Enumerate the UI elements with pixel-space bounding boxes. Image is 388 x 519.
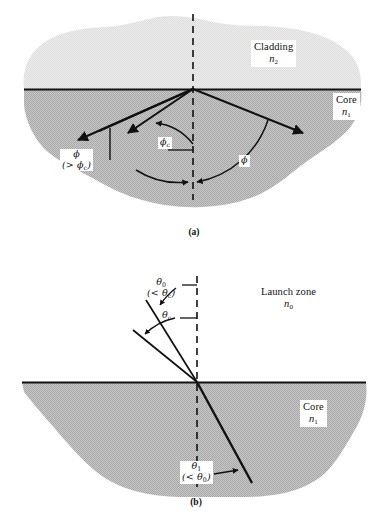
panel-a-core-label-index: n1 xyxy=(336,106,357,119)
panel-a-phi-greater-line2: (> ϕc) xyxy=(62,160,91,171)
panel-a-core-label: Core n1 xyxy=(333,93,360,120)
panel-b-theta1-line2: (< θ0) xyxy=(182,472,211,483)
panel-b-core-label-name: Core xyxy=(303,401,324,413)
panel-b-thetac-label: θc xyxy=(160,310,173,322)
launch-zone-label-name: Launch zone xyxy=(261,286,316,298)
panel-a-core-label-name: Core xyxy=(336,94,357,106)
panel-b-theta0-line2: (< θc) xyxy=(147,288,175,299)
ray-diagram-svg xyxy=(0,0,388,519)
panel-a-caption: (a) xyxy=(174,227,214,237)
panel-a-phi-critical-label: ϕc xyxy=(158,137,172,149)
panel-b-core-label-index: n1 xyxy=(303,413,324,426)
panel-a-phi-label: ϕ xyxy=(239,155,250,167)
cladding-label-name: Cladding xyxy=(254,41,293,53)
launch-zone-label-index: n0 xyxy=(261,298,316,311)
panel-a-phi-critical-text: ϕc xyxy=(160,137,170,148)
cladding-label-index: n2 xyxy=(254,53,293,66)
panel-b-theta0-label: θ0 (< θc) xyxy=(145,277,177,300)
panel-a-phi-text: ϕ xyxy=(241,155,248,166)
panel-b-theta1-label: θ1 (< θ0) xyxy=(180,461,213,484)
launch-zone-label: Launch zone n0 xyxy=(258,285,319,312)
panel-a-phi-greater-label: ϕ (> ϕc) xyxy=(60,149,93,171)
panel-b-core-label: Core n1 xyxy=(300,400,327,427)
cladding-label: Cladding n2 xyxy=(251,40,296,67)
panel-b-ray-thetac xyxy=(133,330,197,382)
figure-root: Cladding n2 Core n1 ϕc ϕ (> ϕc) ϕ (a) La… xyxy=(0,0,388,519)
panel-b-thetac-text: θc xyxy=(162,310,171,321)
panel-b-caption: (b) xyxy=(176,497,216,507)
